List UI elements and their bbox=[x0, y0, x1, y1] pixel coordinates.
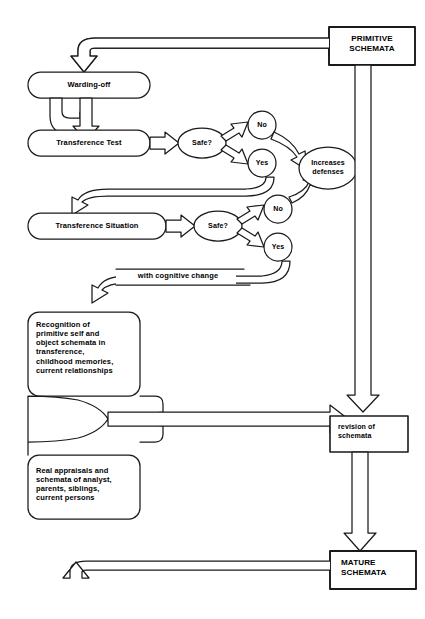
recognition-line-5: childhood memories, bbox=[36, 357, 138, 366]
recognition-line-4: transference, bbox=[36, 347, 138, 356]
edge-yes-to-transference-situation bbox=[72, 177, 274, 215]
real-appraisals-line-2: schemata of analyst, bbox=[36, 475, 138, 484]
recognition-line-2: primitive self and bbox=[36, 329, 138, 338]
recognition-line-1: Recognition of bbox=[36, 320, 138, 329]
node-mature-schemata-label: MATURE SCHEMATA bbox=[341, 558, 421, 578]
edge-safe-to-yes bbox=[221, 145, 248, 164]
revision-line1: revision of bbox=[338, 423, 408, 432]
node-safe-test-label: Safe? bbox=[178, 139, 226, 148]
recognition-line-6: current relationships bbox=[36, 366, 138, 375]
node-situation-no-label: No bbox=[264, 205, 292, 214]
node-safe-situation-label: Safe? bbox=[194, 222, 242, 231]
edge-label-cognitive-change: with cognitive change bbox=[116, 271, 240, 280]
flowchart-canvas: PRIMITIVE SCHEMATA Warding-off Transfere… bbox=[0, 0, 425, 619]
real-appraisals-line-3: parents, siblings, bbox=[36, 484, 138, 493]
edge-boxes-brace-junction bbox=[28, 396, 108, 455]
node-test-yes-label: Yes bbox=[248, 159, 276, 168]
node-increases-defenses-label: Increases defenses bbox=[299, 159, 357, 176]
node-situation-yes-label: Yes bbox=[264, 243, 292, 252]
flowchart-vector-layer bbox=[0, 0, 425, 619]
node-recognition-label: Recognition of primitive self and object… bbox=[36, 320, 138, 375]
edge-primitive-to-warding-off-outline bbox=[71, 38, 329, 72]
node-transference-test-label: Transference Test bbox=[28, 138, 150, 147]
increases-defenses-line1: Increases bbox=[299, 159, 357, 168]
node-revision-of-schemata-label: revision of schemata bbox=[338, 423, 408, 440]
node-test-no-label: No bbox=[248, 121, 276, 130]
mature-schemata-line1: MATURE bbox=[341, 558, 421, 568]
edge-mature-to-top-loop bbox=[63, 561, 330, 578]
node-transference-situation-label: Transference Situation bbox=[28, 221, 166, 230]
primitive-schemata-line2: SCHEMATA bbox=[329, 44, 415, 54]
edge-safe2-to-yes bbox=[237, 228, 264, 247]
edge-transference-test-to-safe bbox=[150, 132, 179, 154]
node-primitive-schemata-label: PRIMITIVE SCHEMATA bbox=[329, 34, 415, 54]
increases-defenses-line2: defenses bbox=[299, 168, 357, 177]
edge-revision-to-mature bbox=[344, 452, 376, 551]
revision-line2: schemata bbox=[338, 432, 408, 441]
node-real-appraisals-label: Real appraisals and schemata of analyst,… bbox=[36, 466, 138, 503]
mature-schemata-line2: SCHEMATA bbox=[341, 568, 421, 578]
recognition-line-3: object schemata in bbox=[36, 338, 138, 347]
real-appraisals-line-1: Real appraisals and bbox=[36, 466, 138, 475]
primitive-schemata-line1: PRIMITIVE bbox=[329, 34, 415, 44]
edge-transference-situation-to-safe2 bbox=[166, 215, 195, 237]
real-appraisals-line-4: current persons bbox=[36, 493, 138, 502]
edge-primitive-to-revision bbox=[347, 65, 379, 412]
node-warding-off-label: Warding-off bbox=[28, 80, 150, 89]
